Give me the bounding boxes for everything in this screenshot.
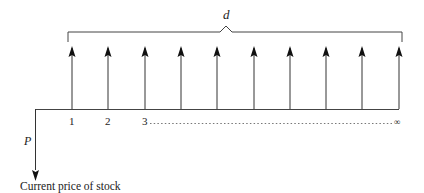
dividend-arrows — [72, 48, 399, 109]
infinity-label: ∞ — [394, 117, 400, 127]
period-label: 1 — [69, 115, 75, 127]
brace-label: d — [223, 7, 230, 22]
period-label: 2 — [105, 115, 111, 127]
caption: Current price of stock — [20, 180, 121, 193]
dividend-brace — [68, 26, 402, 42]
price-label: P — [23, 134, 32, 148]
cash-flow-diagram: d 1 2 3 ∞ P Current price of stock — [0, 0, 424, 193]
period-label: 3 — [142, 115, 148, 127]
